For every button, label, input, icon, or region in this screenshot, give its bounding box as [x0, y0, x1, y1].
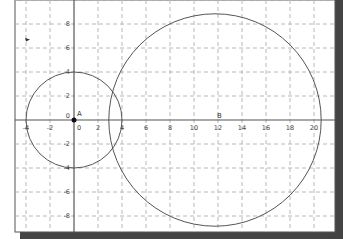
frame-shadow-right [335, 0, 343, 239]
y-tick-label: -6 [64, 188, 70, 196]
origin-label: 0 [66, 112, 70, 120]
plot-svg: -4-2024681012141618208642-2-4-6-80 AB [0, 0, 354, 239]
x-tick-label: 20 [310, 124, 318, 132]
x-tick-label: 14 [238, 124, 246, 132]
y-tick-label: -2 [64, 140, 70, 148]
coordinate-plane: -4-2024681012141618208642-2-4-6-80 AB [0, 0, 354, 239]
point-a [72, 118, 77, 123]
point-b-label: B [217, 112, 222, 120]
y-tick-label: 6 [66, 44, 70, 52]
point-a-label: A [77, 110, 82, 118]
x-tick-label: 8 [168, 124, 172, 132]
x-tick-label: 18 [286, 124, 294, 132]
x-tick-label: 10 [190, 124, 198, 132]
frame-shadow-bottom [20, 232, 343, 239]
y-tick-label: 8 [66, 20, 70, 28]
y-tick-label: -8 [64, 212, 70, 220]
x-tick-label: 12 [214, 124, 222, 132]
x-tick-label: -2 [47, 124, 53, 132]
x-tick-label: 16 [262, 124, 270, 132]
x-tick-label: 2 [96, 124, 100, 132]
x-tick-label: 6 [144, 124, 148, 132]
x-tick-label: 0 [77, 124, 81, 132]
plot-area [15, 0, 335, 232]
y-tick-label: 2 [66, 92, 70, 100]
